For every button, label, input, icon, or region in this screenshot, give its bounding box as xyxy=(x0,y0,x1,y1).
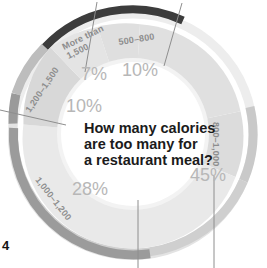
outer-ring-segment-1000-1200 xyxy=(13,94,16,124)
donut-chart: 500–800 800–1,000 1,000–1,200 1,200–1,50… xyxy=(0,0,267,268)
outer-ring-segment-500-800 xyxy=(243,107,253,181)
title-line-2: are too many for xyxy=(84,136,198,152)
percent-value-800-1000: 45% xyxy=(190,165,226,185)
percent-value-1200-1500: 10% xyxy=(66,96,102,116)
percent-value-500-800: 10% xyxy=(122,60,158,80)
page-title: How many calories are too many for a res… xyxy=(84,120,215,168)
title-line-3: a restaurant meal? xyxy=(84,152,213,168)
percent-value-1000-1200: 28% xyxy=(72,179,108,199)
title-line-1: How many calories xyxy=(84,120,215,136)
page-number: 4 xyxy=(2,238,10,253)
percent-value-more-than-1500: 7% xyxy=(81,64,107,84)
infographic-root: 500–800 800–1,000 1,000–1,200 1,200–1,50… xyxy=(0,0,267,268)
